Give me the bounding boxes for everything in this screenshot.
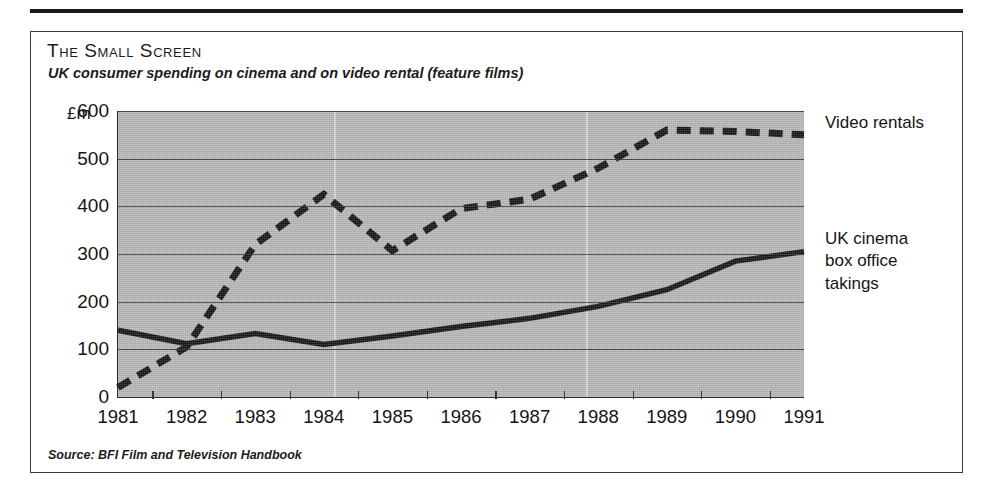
x-axis-tick-label: 1991 [783, 406, 824, 428]
x-axis-tick [770, 391, 771, 399]
x-axis-tick-label: 1983 [235, 406, 276, 428]
legend-label-uk-cinema: UK cinema box office takings [825, 228, 908, 295]
y-axis-tick-label: 0 [98, 386, 109, 408]
y-axis-tick-label: 400 [77, 195, 109, 217]
y-axis-tick-label: 500 [77, 148, 109, 170]
gridline [118, 159, 804, 160]
x-axis-tick [701, 391, 702, 399]
gridline [118, 302, 804, 303]
gridline [118, 206, 804, 207]
x-axis-tick-label: 1990 [715, 406, 756, 428]
plot-wrapper: £m 0100200300400500600198119821983198419… [31, 32, 964, 474]
plot-area: 0100200300400500600198119821983198419851… [117, 111, 804, 398]
x-axis-tick-label: 1986 [440, 406, 481, 428]
gridline [118, 349, 804, 350]
legend-label-video-rentals: Video rentals [825, 112, 924, 134]
x-axis-tick [495, 391, 496, 399]
x-axis-tick [358, 391, 359, 399]
x-axis-tick-label: 1985 [372, 406, 413, 428]
x-axis-tick [633, 391, 634, 399]
x-axis-tick [152, 391, 153, 399]
x-axis-tick-label: 1984 [303, 406, 344, 428]
x-axis-tick-label: 1981 [97, 406, 138, 428]
figure-source-note: Source: BFI Film and Television Handbook [48, 448, 302, 462]
x-axis-tick-label: 1987 [509, 406, 550, 428]
x-axis-tick-label: 1989 [646, 406, 687, 428]
y-axis-tick-label: 600 [77, 100, 109, 122]
x-axis-tick [564, 391, 565, 399]
x-axis-tick [221, 391, 222, 399]
gridline [118, 254, 804, 255]
x-axis-tick [290, 391, 291, 399]
x-axis-tick-label: 1988 [578, 406, 619, 428]
y-axis-tick-label: 300 [77, 243, 109, 265]
gridline [118, 111, 804, 112]
masthead-rule [30, 9, 963, 13]
x-axis-tick [427, 391, 428, 399]
y-axis-tick-label: 200 [77, 291, 109, 313]
x-axis-tick-label: 1982 [166, 406, 207, 428]
figure-container: The Small Screen UK consumer spending on… [30, 31, 963, 473]
y-axis-tick-label: 100 [77, 338, 109, 360]
